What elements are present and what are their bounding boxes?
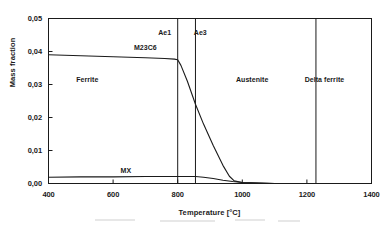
series-label-mx: MX [121,167,132,174]
y-axis-tick-label: 0,00 [8,179,42,188]
y-axis-tick-label: 0,04 [8,47,42,56]
x-axis-tick-label: 600 [93,190,133,199]
region-label-delta-ferrite: Delta ferrite [305,76,345,83]
x-axis-tick-label: 400 [29,190,69,199]
region-label-austenite: Austenite [236,76,268,83]
phase-diagram-chart: Mass fraction Temperature [°C] 0,000,010… [0,0,390,227]
phase-boundary-label-ae3: Ae3 [194,29,207,36]
y-axis-tick-label: 0,05 [8,14,42,23]
y-axis-tick-label: 0,02 [8,113,42,122]
y-axis-tick-label: 0,03 [8,80,42,89]
region-label-ferrite: Ferrite [76,76,98,83]
plot-frame [49,19,372,184]
y-axis-tick-label: 0,01 [8,146,42,155]
x-axis-tick-label: 800 [158,190,198,199]
x-axis-tick-label: 1200 [287,190,327,199]
series-label-m23c6: M23C6 [134,44,157,51]
x-axis-tick-label: 1000 [222,190,262,199]
x-axis-tick-label: 1400 [352,190,390,199]
phase-boundary-label-ae1: Ae1 [158,29,171,36]
